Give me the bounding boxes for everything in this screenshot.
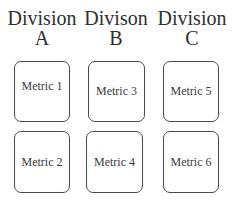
metric-1-label: Metric 1 [22,79,63,94]
metric-4-label: Metric 4 [94,155,135,170]
metric-2-label: Metric 2 [22,155,63,170]
metric-3-label: Metric 3 [96,84,137,99]
division-b-letter: B [78,28,154,48]
division-c-letter: C [154,28,230,48]
division-a-header: Division A [6,8,78,48]
metric-3-box: Metric 3 [88,61,145,122]
division-b-title: Divison [84,7,147,29]
division-a-title: Division [8,7,77,29]
division-b-header: Divison B [78,8,154,48]
metric-2-box: Metric 2 [14,131,70,193]
metric-1-box: Metric 1 [14,61,70,122]
metric-5-label: Metric 5 [171,84,212,99]
metric-4-box: Metric 4 [86,131,143,193]
metric-6-label: Metric 6 [171,155,212,170]
metric-6-box: Metric 6 [163,131,219,193]
division-a-letter: A [6,28,78,48]
metric-5-box: Metric 5 [163,61,219,122]
division-c-header: Division C [154,8,230,48]
division-c-title: Division [158,7,227,29]
